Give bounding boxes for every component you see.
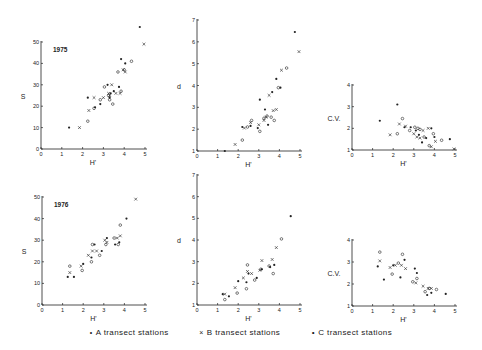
data-point-circle — [69, 265, 72, 268]
x-axis-label: H' — [400, 160, 406, 167]
data-point-cross — [91, 250, 94, 253]
data-point-cross — [275, 246, 278, 249]
data-point-circle — [280, 238, 283, 241]
data-point-circle — [277, 86, 280, 89]
scatter-panel-5: 0123451234567H'd — [177, 172, 302, 322]
data-point-dot — [68, 127, 70, 129]
x-tick-label: 5 — [298, 307, 301, 313]
x-axis-label: H' — [400, 316, 406, 323]
y-tick-label: 50 — [33, 39, 39, 45]
y-axis-label: d — [177, 83, 181, 90]
data-point-dot — [294, 31, 296, 33]
data-point-circle — [285, 67, 288, 70]
x-tick-label: 4 — [278, 153, 281, 159]
data-point-cross — [260, 259, 263, 262]
data-point-circle — [432, 132, 435, 135]
x-tick-label: 0 — [195, 307, 198, 313]
data-point-cross — [116, 237, 119, 240]
data-point-cross — [87, 254, 90, 257]
data-point-cross — [119, 234, 122, 237]
data-point-circle — [253, 279, 256, 282]
data-point-cross — [271, 258, 274, 261]
data-point-dot — [449, 138, 451, 140]
x-tick-label: 2 — [237, 153, 240, 159]
data-point-circle — [119, 224, 122, 227]
data-point-dot — [67, 276, 69, 278]
data-point-dot — [425, 137, 427, 139]
data-point-circle — [245, 287, 248, 290]
data-point-circle — [90, 261, 93, 264]
data-point-cross — [434, 140, 437, 143]
data-point-dot — [120, 58, 122, 60]
data-point-circle — [401, 253, 404, 256]
x-tick-label: 2 — [392, 308, 395, 314]
x-tick-label: 2 — [82, 307, 85, 313]
data-point-cross — [398, 123, 401, 126]
data-point-circle — [113, 237, 116, 240]
x-tick-label: 3 — [257, 307, 260, 313]
y-tick-label: 20 — [33, 103, 39, 109]
data-point-dot — [114, 243, 116, 245]
scatter-panel-2: 0123451234567H'd — [177, 17, 302, 168]
y-tick-label: 7 — [192, 17, 195, 23]
y-tick-label: 50 — [34, 194, 40, 200]
y-tick-label: 5 — [192, 215, 195, 221]
data-point-dot — [261, 268, 263, 270]
data-point-cross — [243, 127, 246, 130]
data-point-dot — [256, 277, 258, 279]
data-point-circle — [273, 119, 276, 122]
data-point-dot — [247, 272, 249, 274]
y-tick-label: 3 — [192, 104, 195, 110]
y-tick-label: 3 — [347, 104, 350, 110]
x-tick-label: 0 — [350, 152, 353, 158]
y-tick-label: 2 — [347, 125, 350, 131]
data-point-dot — [110, 92, 112, 94]
scatter-panel-1: 01234501020304050H'S1975 — [21, 26, 147, 166]
legend-item-c: ∘C transect stations — [311, 328, 392, 337]
data-point-cross — [143, 43, 146, 46]
data-point-dot — [426, 294, 428, 296]
y-axis-label: d — [177, 237, 181, 244]
x-tick-label: 0 — [39, 151, 42, 157]
data-point-circle — [246, 126, 249, 129]
data-point-cross — [389, 133, 392, 136]
data-point-cross — [298, 50, 301, 53]
data-point-cross — [412, 132, 415, 135]
data-point-cross — [422, 285, 425, 288]
data-point-dot — [90, 256, 92, 258]
data-point-dot — [399, 276, 401, 278]
data-point-circle — [91, 243, 94, 246]
data-point-cross — [134, 198, 137, 201]
data-point-cross — [422, 129, 425, 132]
data-point-dot — [392, 264, 394, 266]
x-tick-label: 3 — [102, 307, 105, 313]
data-point-dot — [271, 91, 273, 93]
data-point-circle — [414, 126, 417, 129]
legend-item-b: ×B transect stations — [199, 328, 280, 337]
data-point-cross — [275, 108, 278, 111]
y-tick-label: 3 — [347, 259, 350, 265]
data-point-circle — [81, 269, 84, 272]
data-point-dot — [275, 78, 277, 80]
data-point-dot — [94, 106, 96, 108]
data-point-circle — [440, 139, 443, 142]
data-point-dot — [93, 243, 95, 245]
y-tick-label: 7 — [192, 172, 195, 178]
x-tick-label: 5 — [453, 308, 456, 314]
data-point-dot — [245, 281, 247, 283]
data-point-dot — [416, 272, 418, 274]
data-point-dot — [430, 127, 432, 129]
y-tick-label: 1 — [192, 302, 195, 308]
data-point-cross — [78, 126, 81, 129]
data-point-circle — [424, 290, 427, 293]
data-point-cross — [272, 109, 275, 112]
legend-label-c: C transect stations — [318, 328, 392, 337]
data-point-dot — [224, 150, 226, 152]
x-tick-label: 5 — [453, 152, 456, 158]
data-point-circle — [391, 273, 394, 276]
data-point-dot — [101, 250, 103, 252]
data-point-cross — [68, 271, 71, 274]
legend-label-b: B transect stations — [207, 328, 280, 337]
dot-marker-icon: • — [90, 329, 93, 336]
data-point-dot — [237, 280, 239, 282]
